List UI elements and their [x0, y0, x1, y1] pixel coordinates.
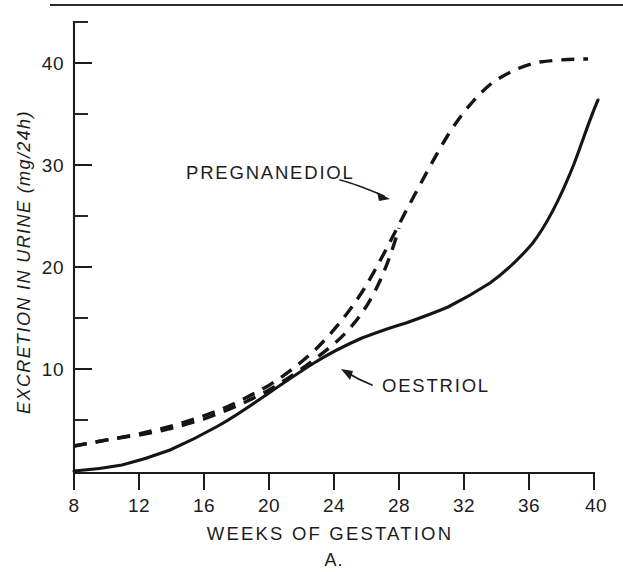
- series-label-oestriol: OESTRIOL: [382, 375, 490, 396]
- chart-canvas: 40 30 20 10 8 12 16 20 24 28 32 36 40 WE…: [0, 0, 623, 572]
- x-tick-label-12: 12: [128, 495, 150, 516]
- figure-root: 40 30 20 10 8 12 16 20 24 28 32 36 40 WE…: [0, 0, 623, 572]
- series-curve-pregnanediol: [74, 59, 588, 446]
- x-tick-label-28: 28: [388, 495, 410, 516]
- x-tick-label-8: 8: [68, 495, 79, 516]
- y-axis-minor-ticks: [74, 22, 88, 420]
- y-axis-title: EXCRETION IN URINE (mg/24h): [14, 110, 34, 414]
- panel-label: A.: [324, 550, 343, 570]
- y-tick-label-30: 30: [42, 155, 64, 176]
- x-tick-label-16: 16: [193, 495, 215, 516]
- x-tick-label-24: 24: [323, 495, 345, 516]
- pregnanediol-leader: [340, 180, 390, 201]
- x-tick-label-36: 36: [518, 495, 540, 516]
- x-tick-label-32: 32: [453, 495, 475, 516]
- y-tick-label-40: 40: [42, 53, 64, 74]
- x-tick-label-20: 20: [258, 495, 280, 516]
- x-tick-label-40: 40: [585, 495, 607, 516]
- y-tick-label-20: 20: [42, 257, 64, 278]
- oestriol-leader: [341, 369, 372, 385]
- series-label-pregnanediol: PREGNANEDIOL: [186, 162, 355, 183]
- axis-lines: [74, 22, 594, 473]
- x-axis-ticks: [74, 473, 594, 490]
- x-axis-title: WEEKS OF GESTATION: [207, 523, 454, 544]
- y-tick-label-10: 10: [42, 359, 64, 380]
- series-curve-oestriol: [74, 100, 598, 471]
